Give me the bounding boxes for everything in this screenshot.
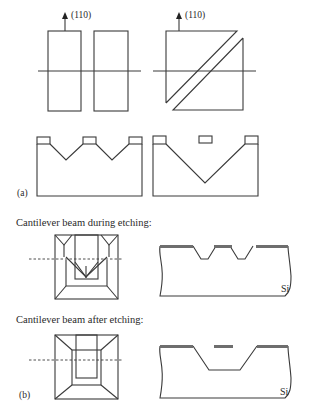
panel-b-label: (b)	[19, 391, 30, 401]
substrate-label-during: Si	[281, 284, 289, 294]
anisotropic-etching-diagram	[0, 0, 309, 410]
mask-pattern-diagonal-slot	[153, 17, 256, 110]
cross-section-single-v-groove	[153, 136, 258, 196]
panel-a-label: (a)	[17, 189, 28, 199]
mask-pattern-two-rectangles	[38, 17, 141, 111]
cross-section-during-etching	[160, 246, 291, 296]
arrow-up-icon	[176, 12, 182, 19]
orientation-label-left: (110)	[71, 11, 91, 21]
top-view-after-etching	[29, 335, 122, 399]
substrate-label-after: Si	[280, 387, 288, 397]
orientation-label-right: (110)	[185, 11, 205, 21]
caption-during-etching: Cantilever beam during etching:	[16, 218, 152, 229]
cross-section-two-v-grooves	[37, 137, 142, 196]
top-view-during-etching	[29, 235, 122, 299]
arrow-up-icon	[62, 12, 68, 19]
caption-after-etching: Cantilever beam after etching:	[16, 315, 143, 326]
cross-section-after-etching	[160, 346, 291, 398]
